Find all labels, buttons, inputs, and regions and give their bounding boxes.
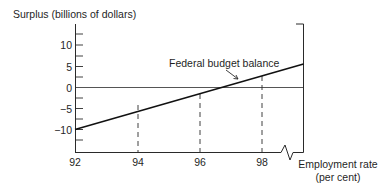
series-annotation-label: Federal budget balance (169, 57, 279, 69)
annotation-pointer (226, 70, 238, 79)
x-tick-94: 94 (132, 156, 144, 168)
y-tick-m5: −5 (60, 103, 72, 115)
y-tick-m10: −10 (54, 124, 72, 136)
series-federal-budget-balance (75, 64, 304, 130)
x-axis-title: Employment rate (per cent) (298, 158, 378, 184)
x-axis (75, 145, 304, 160)
y-tick-0: 0 (66, 82, 72, 94)
x-tick-92: 92 (69, 156, 81, 168)
y-tick-5: 5 (66, 61, 72, 73)
x-tick-96: 96 (194, 156, 206, 168)
x-axis-title-line1: Employment rate (298, 158, 378, 171)
x-axis-title-line2: (per cent) (298, 171, 378, 184)
y-tick-10: 10 (60, 39, 72, 51)
y-ticks (75, 34, 83, 140)
x-tick-98: 98 (256, 156, 268, 168)
